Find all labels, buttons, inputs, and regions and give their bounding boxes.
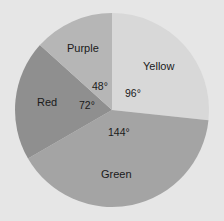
chart-stage: Yellow 96° Purple 48° Red 72° 144° Green	[0, 0, 224, 221]
label-yellow: Yellow	[143, 60, 174, 72]
value-yellow: 96°	[125, 87, 141, 99]
label-red: Red	[37, 96, 57, 108]
value-purple: 48°	[92, 80, 108, 92]
label-green: Green	[101, 168, 132, 180]
label-purple: Purple	[67, 42, 99, 54]
value-red: 72°	[79, 99, 95, 111]
value-green: 144°	[108, 126, 130, 138]
pie-chart	[0, 0, 224, 221]
